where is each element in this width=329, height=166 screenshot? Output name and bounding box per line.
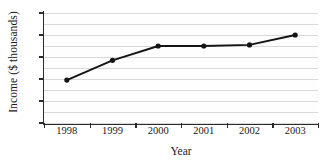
x-axis-tick [135,123,136,128]
x-axis-tick-label: 2001 [184,126,224,137]
x-axis-tick-label: 1999 [93,126,133,137]
x-axis-tick [318,123,319,128]
x-axis-tick [227,123,228,128]
x-axis-tick [181,123,182,128]
x-axis-tick [272,123,273,128]
series-line [67,35,295,80]
y-axis-title: Income ($ thousands) [7,0,19,124]
data-point [293,32,298,37]
x-axis-tick [90,123,91,128]
x-axis-tick-label: 1998 [47,126,87,137]
line-chart-figure: Income ($ thousands) 353739414345 199819… [0,0,329,166]
x-axis-title: Year [44,145,318,157]
data-series-income [44,13,318,123]
x-axis-tick-label: 2000 [138,126,178,137]
data-point [64,78,69,83]
data-point [156,43,161,48]
data-point [247,42,252,47]
x-axis-tick-label: 2002 [230,126,270,137]
x-axis-tick-label: 2003 [275,126,315,137]
plot-area: 353739414345 [44,13,318,123]
data-point [201,43,206,48]
x-axis-tick [44,123,45,128]
data-point [110,58,115,63]
